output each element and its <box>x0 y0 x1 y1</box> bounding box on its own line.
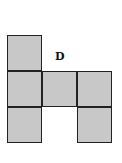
square-r2-c0 <box>7 107 42 143</box>
square-r1-c0 <box>7 71 42 107</box>
square-r2-c2 <box>77 107 112 143</box>
option-label: D <box>55 50 65 63</box>
square-r0-c0 <box>7 35 42 71</box>
square-r1-c2 <box>77 71 112 107</box>
square-r1-c1 <box>42 71 77 107</box>
